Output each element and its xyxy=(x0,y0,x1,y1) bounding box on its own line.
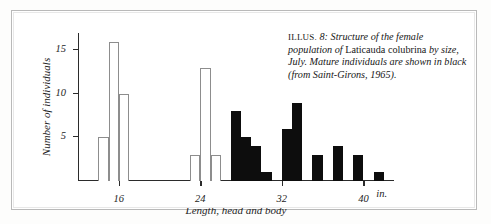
figure-illustration-8: Number of individuals 51015 16243240in. … xyxy=(0,0,491,224)
bar-mature-30 xyxy=(261,172,271,181)
caption-number: 8: xyxy=(320,31,329,42)
bar-mature-32 xyxy=(282,129,292,181)
bar-mature-37 xyxy=(333,146,343,181)
x-tick-16: 16 xyxy=(119,181,120,186)
bar-mature-27 xyxy=(231,111,241,181)
bar-mature-35 xyxy=(312,155,322,181)
y-tick-label-10: 10 xyxy=(56,87,67,98)
bar-mature-29 xyxy=(251,146,261,181)
y-tick-10: 10 xyxy=(73,93,78,94)
y-tick-label-15: 15 xyxy=(56,44,67,55)
bar-immature-23 xyxy=(190,155,200,181)
y-axis-title-text: Number of individuals xyxy=(40,58,52,156)
bar-immature-14 xyxy=(98,137,108,181)
x-tick-24: 24 xyxy=(200,181,201,186)
bar-immature-24 xyxy=(200,68,210,181)
caption-species-name: Laticauda colubrina xyxy=(345,44,426,55)
bar-immature-15 xyxy=(109,42,119,181)
x-tick-label-32: 32 xyxy=(277,193,288,204)
bar-mature-39 xyxy=(353,155,363,181)
y-tick-5: 5 xyxy=(73,136,78,137)
x-tick-label-40: 40 xyxy=(358,193,369,204)
bar-mature-33 xyxy=(292,103,302,181)
bar-mature-41 xyxy=(374,172,384,181)
y-tick-15: 15 xyxy=(73,49,78,50)
x-tick-32: 32 xyxy=(282,181,283,186)
x-axis-unit-label: in. xyxy=(376,188,387,199)
x-axis-title: Length, head and body xyxy=(78,204,394,216)
bar-immature-16 xyxy=(119,94,129,181)
bar-mature-28 xyxy=(241,137,251,181)
bar-immature-25 xyxy=(211,155,221,181)
y-axis-line xyxy=(78,33,79,181)
x-tick-label-16: 16 xyxy=(114,193,125,204)
figure-frame: Number of individuals 51015 16243240in. … xyxy=(11,10,477,210)
caption-illus-tag: ILLUS. xyxy=(288,32,317,42)
y-axis-title: Number of individuals xyxy=(38,33,54,181)
x-tick-label-24: 24 xyxy=(195,193,206,204)
y-tick-label-5: 5 xyxy=(61,131,66,142)
x-tick-40: 40 xyxy=(363,181,364,186)
figure-caption: ILLUS. 8: Structure of the female popula… xyxy=(288,31,468,81)
